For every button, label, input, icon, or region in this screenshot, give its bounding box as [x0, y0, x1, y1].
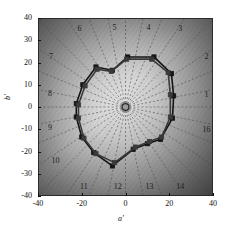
- x-tick-mark: [82, 193, 83, 196]
- y-tick-label: -10: [10, 124, 32, 133]
- data-point-marker: [83, 84, 87, 88]
- data-point-marker: [168, 115, 172, 119]
- data-point-marker: [76, 116, 80, 120]
- sector-label-12: 12: [114, 182, 122, 191]
- sector-label-3: 3: [178, 24, 182, 33]
- sector-label-11: 11: [80, 182, 88, 191]
- sector-label-2: 2: [204, 52, 208, 61]
- y-tick-mark: [38, 152, 41, 153]
- sector-label-9: 9: [48, 123, 52, 132]
- x-tick-mark: [126, 193, 127, 196]
- y-tick-mark: [38, 196, 41, 197]
- sector-label-10: 10: [52, 156, 60, 165]
- y-tick-mark: [38, 40, 41, 41]
- y-tick-label: -30: [10, 169, 32, 178]
- sector-label-13: 13: [146, 182, 154, 191]
- data-point-marker: [109, 69, 113, 73]
- x-axis-label: a': [118, 214, 124, 223]
- x-tick-mark: [213, 193, 214, 196]
- x-tick-label: 0: [113, 199, 139, 208]
- sector-label-16: 16: [202, 125, 210, 134]
- x-tick-mark: [169, 193, 170, 196]
- data-point-marker: [124, 57, 128, 61]
- y-tick-label: 30: [10, 35, 32, 44]
- y-axis-label: b': [3, 94, 12, 100]
- y-tick-mark: [38, 129, 41, 130]
- x-tick-label: 40: [200, 199, 226, 208]
- y-tick-label: 10: [10, 80, 32, 89]
- y-tick-label: -20: [10, 147, 32, 156]
- x-tick-label: -20: [69, 199, 95, 208]
- data-point-marker: [159, 135, 163, 139]
- data-point-marker: [76, 103, 80, 107]
- data-point-marker: [133, 145, 137, 149]
- sector-label-14: 14: [176, 182, 184, 191]
- y-tick-mark: [38, 18, 41, 19]
- x-tick-label: 20: [156, 199, 182, 208]
- x-tick-label: -40: [25, 199, 51, 208]
- sector-label-7: 7: [49, 52, 53, 61]
- data-point-marker: [95, 67, 99, 71]
- plot-area: 123456789101112131416: [38, 18, 213, 196]
- sector-label-4: 4: [147, 23, 151, 32]
- y-tick-mark: [38, 85, 41, 86]
- data-point-marker: [147, 139, 151, 143]
- y-tick-mark: [38, 174, 41, 175]
- data-point-marker: [94, 152, 98, 156]
- data-point-marker: [168, 93, 172, 97]
- data-point-marker: [150, 57, 154, 61]
- data-point-marker: [166, 70, 170, 74]
- origin-marker: [122, 104, 129, 111]
- sector-label-8: 8: [48, 89, 52, 98]
- y-tick-label: 40: [10, 13, 32, 22]
- data-point-marker: [112, 161, 116, 165]
- figure-panel: 123456789101112131416 403020100-10-20-30…: [0, 0, 230, 229]
- sector-label-6: 6: [78, 24, 82, 33]
- y-tick-mark: [38, 63, 41, 64]
- data-point-marker: [82, 136, 86, 140]
- y-tick-label: 0: [10, 102, 32, 111]
- plot-canvas: 123456789101112131416: [38, 18, 213, 196]
- sector-label-5: 5: [113, 23, 117, 32]
- sector-label-1: 1: [204, 90, 208, 99]
- x-tick-mark: [38, 193, 39, 196]
- y-tick-mark: [38, 107, 41, 108]
- y-tick-label: 20: [10, 58, 32, 67]
